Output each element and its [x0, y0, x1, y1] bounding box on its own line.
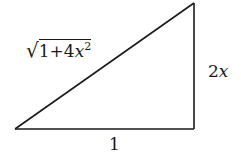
triangle-figure	[0, 0, 241, 156]
vertical-side-label: 2x	[208, 63, 228, 80]
exponent: 2	[84, 40, 91, 53]
variable-x: x	[75, 41, 85, 61]
base-label: 1	[109, 136, 120, 153]
hypotenuse-label: √1+4x2	[26, 39, 91, 60]
radicand-prefix: 1+4	[39, 41, 75, 61]
hypotenuse-line	[15, 3, 194, 129]
square-root-symbol: √	[26, 40, 39, 60]
variable-x: x	[219, 61, 229, 81]
radicand: 1+4x2	[39, 39, 91, 60]
coefficient: 2	[208, 61, 219, 81]
